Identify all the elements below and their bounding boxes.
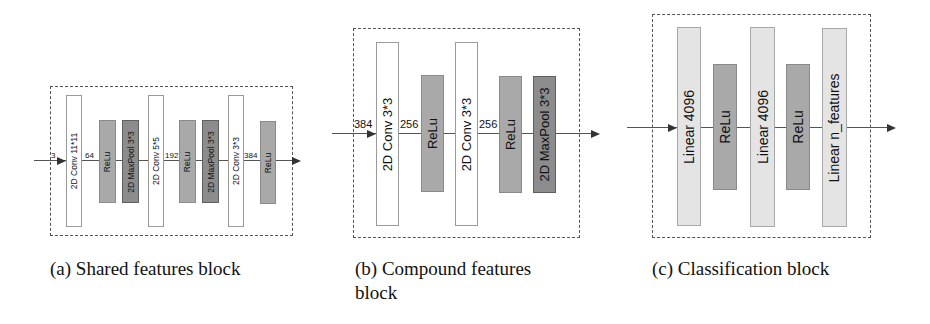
panel-classification: Linear 4096 ReLu Linear 4096 ReLu Linear… xyxy=(0,0,930,324)
caption-c: (c) Classification block xyxy=(652,257,829,281)
block-label: ReLu xyxy=(717,110,733,143)
input-arrow-icon xyxy=(668,124,677,132)
relu-block: ReLu xyxy=(786,64,810,190)
block-label: Linear 4096 xyxy=(681,90,697,164)
block-label: Linear n_features xyxy=(827,73,843,182)
linear-block: Linear 4096 xyxy=(750,27,775,227)
block-label: Linear 4096 xyxy=(755,90,771,164)
linear-block: Linear n_features xyxy=(822,28,847,227)
linear-block: Linear 4096 xyxy=(677,27,701,226)
relu-block: ReLu xyxy=(713,64,737,190)
block-label: ReLu xyxy=(790,110,806,143)
output-arrow-icon xyxy=(887,124,896,132)
